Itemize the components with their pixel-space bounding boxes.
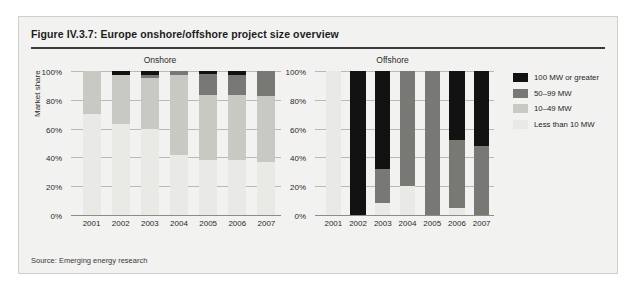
stacked-bar[interactable]: [83, 71, 101, 215]
gridline: 0%: [315, 215, 494, 216]
stacked-bar[interactable]: [350, 71, 365, 215]
y-axis-label: Market share: [33, 70, 42, 117]
plot-area: Onshore Market share 0%20%40%60%80%100% …: [19, 53, 617, 273]
bar-segment: [83, 114, 101, 215]
legend-item[interactable]: 10–49 MW: [513, 102, 617, 115]
y-axis-tick-label: 100%: [286, 68, 306, 77]
bar-segment: [170, 75, 188, 154]
bar-segment: [228, 75, 246, 95]
y-axis-tick-label: 80%: [290, 96, 306, 105]
x-axis-tick-label: 2006: [223, 219, 252, 228]
gridline: 0%: [71, 215, 281, 216]
title-divider: [31, 47, 605, 49]
stacked-bar[interactable]: [326, 71, 341, 215]
stacked-bar[interactable]: [228, 71, 246, 215]
bar-segment: [199, 160, 217, 215]
legend-item[interactable]: 50–99 MW: [513, 87, 617, 100]
bar-slot: [321, 71, 346, 215]
stacked-bar[interactable]: [257, 71, 275, 215]
bar-slot: [395, 71, 420, 215]
bar-slot: [106, 71, 135, 215]
legend-label: Less than 10 MW: [534, 120, 595, 129]
x-axis-tick-label: 2004: [164, 219, 193, 228]
bar-segment: [257, 71, 275, 95]
y-axis-tick-label: 20%: [46, 183, 62, 192]
bar-segment: [449, 71, 464, 140]
bar-segment: [112, 75, 130, 124]
x-axis-tick-label: 2004: [395, 219, 420, 228]
x-axis-tick-label: 2007: [469, 219, 494, 228]
bar-slot: [223, 71, 252, 215]
legend-item[interactable]: 100 MW or greater: [513, 71, 617, 84]
panel-title-offshore: Offshore: [285, 55, 500, 65]
legend-swatch-icon: [513, 120, 528, 129]
stacked-bar[interactable]: [170, 71, 188, 215]
stacked-bar[interactable]: [449, 71, 464, 215]
stacked-bar[interactable]: [474, 71, 489, 215]
bar-segment: [474, 71, 489, 146]
x-axis-tick-label: 2002: [106, 219, 135, 228]
bar-slot: [252, 71, 281, 215]
x-axis-tick-label: 2007: [252, 219, 281, 228]
bar-slot: [469, 71, 494, 215]
bar-segment: [326, 71, 341, 215]
legend-swatch-icon: [513, 104, 528, 113]
y-axis-tick-label: 40%: [46, 154, 62, 163]
y-axis-tick-label: 60%: [290, 125, 306, 134]
source-note: Source: Emerging energy research: [31, 256, 147, 265]
bar-segment: [199, 95, 217, 160]
bar-segment: [375, 169, 390, 204]
x-axis-tick-label: 2001: [77, 219, 106, 228]
bars-onshore: [77, 71, 281, 215]
panel-title-onshore: Onshore: [35, 55, 285, 65]
figure-container: Figure IV.3.7: Europe onshore/offshore p…: [18, 16, 618, 274]
bar-slot: [135, 71, 164, 215]
bar-slot: [346, 71, 371, 215]
y-axis-tick-label: 100%: [42, 68, 62, 77]
chart-panel-offshore: Offshore 0%20%40%60%80%100% 200120022003…: [285, 53, 500, 243]
bar-segment: [228, 95, 246, 160]
legend-item[interactable]: Less than 10 MW: [513, 118, 617, 131]
x-axis-tick-label: 2003: [370, 219, 395, 228]
y-axis-tick-label: 20%: [290, 183, 306, 192]
chart-panel-onshore: Onshore Market share 0%20%40%60%80%100% …: [35, 53, 285, 243]
legend-label: 10–49 MW: [534, 104, 572, 113]
bar-segment: [199, 74, 217, 96]
bar-segment: [141, 129, 159, 215]
legend-label: 100 MW or greater: [534, 73, 599, 82]
bar-segment: [425, 71, 440, 215]
stacked-bar[interactable]: [141, 71, 159, 215]
bar-segment: [375, 203, 390, 215]
x-axis-tick-label: 2003: [135, 219, 164, 228]
stacked-bar[interactable]: [199, 71, 217, 215]
y-axis-tick-label: 0%: [50, 212, 62, 221]
legend-swatch-icon: [513, 73, 528, 82]
legend-swatch-icon: [513, 89, 528, 98]
bar-segment: [449, 208, 464, 215]
x-axis-tick-label: 2002: [346, 219, 371, 228]
stacked-bar[interactable]: [112, 71, 130, 215]
bar-segment: [112, 124, 130, 215]
x-axis-labels-onshore: 2001200220032004200520062007: [77, 219, 281, 228]
bar-segment: [350, 71, 365, 215]
x-axis-tick-label: 2005: [420, 219, 445, 228]
chart-canvas-offshore: 0%20%40%60%80%100%: [321, 71, 494, 215]
bar-segment: [400, 186, 415, 215]
bar-segment: [375, 71, 390, 169]
stacked-bar[interactable]: [425, 71, 440, 215]
y-axis-tick-label: 60%: [46, 125, 62, 134]
bars-offshore: [321, 71, 494, 215]
bar-segment: [257, 96, 275, 162]
x-axis-tick-label: 2005: [194, 219, 223, 228]
legend-label: 50–99 MW: [534, 89, 572, 98]
bar-slot: [445, 71, 470, 215]
x-axis-tick-label: 2001: [321, 219, 346, 228]
stacked-bar[interactable]: [400, 71, 415, 215]
bar-slot: [164, 71, 193, 215]
bar-segment: [170, 155, 188, 215]
bar-segment: [257, 162, 275, 215]
y-axis-tick-label: 0%: [294, 212, 306, 221]
bar-segment: [83, 71, 101, 114]
bar-segment: [400, 71, 415, 186]
stacked-bar[interactable]: [375, 71, 390, 215]
